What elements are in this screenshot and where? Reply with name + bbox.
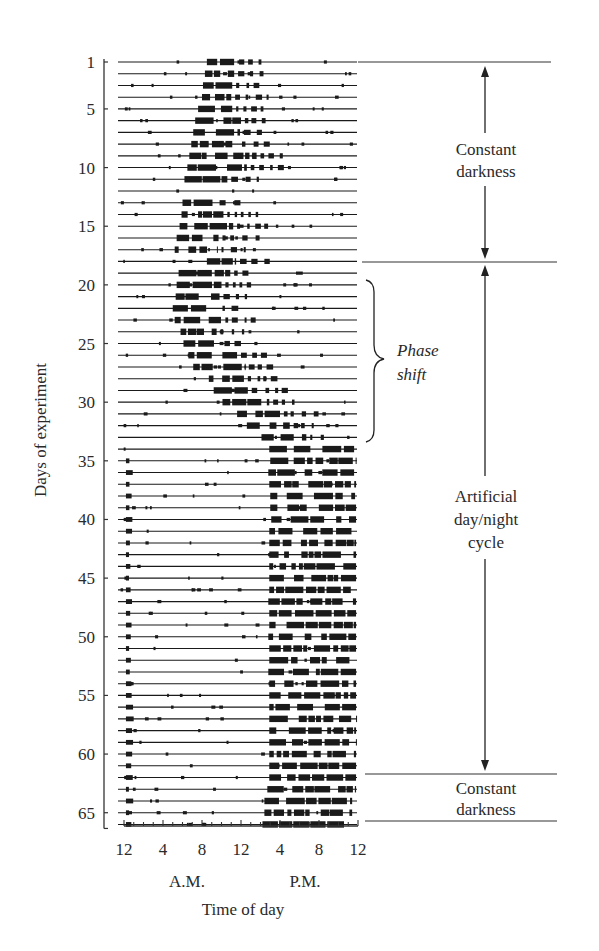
- arrowhead-up-icon: [481, 66, 489, 77]
- arrowhead-down-icon: [481, 248, 489, 259]
- phase-shift-label-a: Phase: [396, 341, 439, 360]
- phase-shift-brace: [366, 280, 384, 442]
- day-row: [118, 657, 357, 663]
- x-tick-label: 4: [276, 840, 285, 859]
- day-row: [118, 645, 357, 651]
- day-row: [118, 575, 357, 581]
- y-tick-label: 1: [87, 53, 96, 72]
- day-row: [118, 329, 357, 335]
- day-row: [118, 786, 357, 792]
- day-row: [118, 246, 357, 252]
- day-row: [118, 411, 357, 417]
- artificial-label-a: Artificial: [455, 487, 518, 506]
- day-row: [118, 634, 357, 640]
- day-row: [118, 798, 357, 804]
- day-row: [118, 422, 357, 428]
- y-tick-label: 30: [78, 393, 95, 412]
- y-tick-label: 65: [78, 804, 95, 823]
- day-row: [118, 211, 357, 217]
- day-row: [118, 610, 357, 616]
- day-row: [118, 270, 357, 276]
- activity-rows: [118, 59, 357, 828]
- day-row: [118, 82, 357, 88]
- y-tick-label: 15: [78, 217, 95, 236]
- day-row: [118, 235, 357, 241]
- day-row: [118, 153, 357, 159]
- day-row: [118, 282, 357, 288]
- artificial-label-c: cycle: [468, 533, 504, 552]
- day-row: [118, 106, 357, 112]
- day-row: [118, 129, 357, 135]
- artificial-label-b: day/night: [454, 510, 518, 529]
- y-tick-label: 55: [78, 686, 95, 705]
- day-row: [118, 317, 357, 323]
- y-tick-label: 35: [78, 452, 95, 471]
- y-axis-title: Days of experiment: [31, 363, 50, 497]
- y-tick-label: 25: [78, 335, 95, 354]
- day-row: [118, 727, 357, 733]
- day-row: [118, 680, 357, 686]
- x-tick-label: 8: [315, 840, 324, 859]
- day-row: [118, 716, 357, 722]
- day-row: [118, 528, 357, 534]
- day-row: [118, 446, 357, 452]
- day-row: [118, 516, 357, 522]
- constant-darkness-label-1a: Constant: [456, 140, 517, 159]
- day-row: [118, 563, 357, 569]
- day-row: [118, 71, 357, 77]
- day-row: [118, 692, 357, 698]
- day-row: [118, 352, 357, 358]
- day-row: [118, 821, 357, 827]
- day-row: [118, 774, 357, 780]
- constant-darkness-label-1b: darkness: [456, 162, 515, 181]
- day-row: [118, 189, 357, 192]
- day-row: [118, 59, 357, 65]
- annotations: Constant darkness Artificial day/night c…: [358, 62, 557, 821]
- x-axis-title: Time of day: [202, 900, 285, 919]
- y-axis: 15101520253035404550556065: [78, 53, 108, 828]
- day-row: [118, 200, 357, 206]
- day-row: [118, 481, 357, 487]
- constant-darkness-label-2a: Constant: [456, 779, 517, 798]
- day-row: [118, 258, 357, 264]
- day-row: [118, 493, 357, 499]
- day-row: [118, 399, 357, 405]
- y-tick-label: 10: [78, 159, 95, 178]
- day-row: [118, 458, 357, 464]
- y-tick-label: 45: [78, 569, 95, 588]
- day-row: [118, 376, 357, 382]
- day-row: [118, 387, 357, 393]
- day-row: [118, 223, 357, 229]
- day-row: [118, 364, 357, 370]
- pm-label: P.M.: [289, 872, 320, 891]
- day-row: [118, 598, 357, 604]
- x-axis: 1248124812: [116, 820, 367, 859]
- x-tick-label: 12: [116, 840, 133, 859]
- arrowhead-down-icon: [481, 760, 489, 771]
- day-row: [118, 810, 357, 816]
- y-tick-label: 5: [87, 100, 96, 119]
- day-row: [118, 763, 357, 769]
- x-tick-label: 12: [233, 840, 250, 859]
- day-row: [118, 551, 357, 557]
- day-row: [118, 340, 357, 346]
- day-row: [118, 293, 357, 299]
- day-row: [118, 434, 357, 440]
- y-tick-label: 40: [78, 510, 95, 529]
- day-row: [118, 141, 357, 147]
- day-row: [118, 305, 357, 311]
- day-row: [118, 117, 357, 123]
- day-row: [118, 669, 357, 675]
- day-row: [118, 704, 357, 710]
- am-label: A.M.: [169, 872, 205, 891]
- phase-shift-label-b: shift: [397, 365, 428, 384]
- y-tick-label: 50: [78, 628, 95, 647]
- x-tick-label: 8: [198, 840, 207, 859]
- day-row: [118, 739, 357, 745]
- day-row: [118, 622, 357, 628]
- constant-darkness-label-2b: darkness: [456, 800, 515, 819]
- y-tick-label: 60: [78, 745, 95, 764]
- actogram-figure: 15101520253035404550556065 1248124812 Da…: [0, 0, 599, 951]
- day-row: [118, 164, 357, 170]
- y-tick-label: 20: [78, 276, 95, 295]
